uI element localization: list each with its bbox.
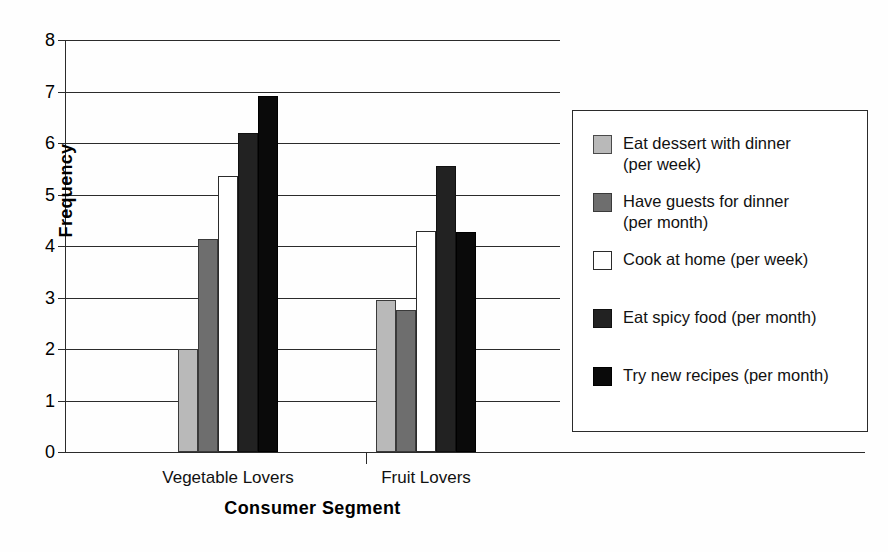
legend-item[interactable]: Eat dessert with dinner (per week)	[573, 133, 867, 191]
legend-item-label: Try new recipes (per month)	[623, 365, 829, 386]
bar	[416, 231, 436, 452]
y-axis-title: Frequency	[56, 111, 77, 271]
bar	[218, 176, 238, 452]
bar	[436, 166, 456, 452]
bar	[178, 349, 198, 452]
legend-item[interactable]: Eat spicy food (per month)	[573, 307, 867, 365]
bar-group	[376, 40, 476, 452]
x-axis-tick	[366, 452, 367, 464]
x-axis-line	[65, 452, 865, 453]
legend-item[interactable]: Try new recipes (per month)	[573, 365, 867, 423]
bar	[376, 300, 396, 452]
bar	[258, 96, 278, 452]
bar	[238, 133, 258, 452]
legend-item[interactable]: Have guests for dinner (per month)	[573, 191, 867, 249]
bar	[198, 239, 218, 452]
y-axis-tick-label: 8	[5, 30, 65, 51]
y-axis-tick-label: 0	[5, 442, 65, 463]
y-axis-tick-label: 1	[5, 390, 65, 411]
legend-swatch-cook-at-home-icon	[593, 251, 612, 270]
legend-swatch-eat-dessert-icon	[593, 135, 612, 154]
legend-item-label: Have guests for dinner (per month)	[623, 191, 789, 233]
x-axis-title: Consumer Segment	[65, 498, 560, 519]
legend-item-label: Eat spicy food (per month)	[623, 307, 817, 328]
bar	[396, 310, 416, 452]
legend-swatch-try-recipes-icon	[593, 367, 612, 386]
y-axis-tick-label: 3	[5, 287, 65, 308]
y-axis-tick-label: 2	[5, 339, 65, 360]
bar-group	[178, 40, 278, 452]
bar-chart-figure: 012345678 Vegetable LoversFruit Lovers C…	[0, 0, 888, 552]
legend-swatch-have-guests-icon	[593, 193, 612, 212]
bar	[456, 232, 476, 452]
x-axis-category-label: Fruit Lovers	[381, 468, 471, 488]
legend-item-label: Cook at home (per week)	[623, 249, 808, 270]
legend-swatch-eat-spicy-icon	[593, 309, 612, 328]
legend-item[interactable]: Cook at home (per week)	[573, 249, 867, 307]
legend-item-label: Eat dessert with dinner (per week)	[623, 133, 791, 175]
plot-area	[65, 40, 560, 452]
y-axis-tick-label: 7	[5, 81, 65, 102]
legend: Eat dessert with dinner (per week)Have g…	[572, 110, 868, 432]
x-axis-category-label: Vegetable Lovers	[162, 468, 293, 488]
